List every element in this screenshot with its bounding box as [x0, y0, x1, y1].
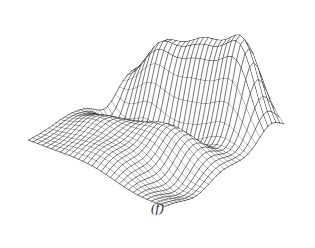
figure-root: (f) [0, 0, 315, 248]
figure-caption: (f) [0, 200, 315, 216]
